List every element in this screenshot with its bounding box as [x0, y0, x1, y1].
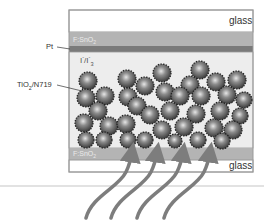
bottom-glass-label: glass [229, 161, 252, 171]
cell-schematic [0, 0, 264, 220]
dssc-diagram: glass F:SnO2 Pt I-/I-3 TiO2/N719 F:SnO2 … [0, 0, 264, 220]
top-glass-layer [69, 10, 253, 32]
tio2-label: TiO2/N719 [17, 81, 52, 89]
pt-layer [69, 46, 253, 52]
bottom-fto-layer [69, 148, 253, 160]
electrolyte-label: I-/I-3 [80, 57, 94, 65]
top-fto-label: F:SnO2 [73, 36, 96, 43]
top-glass-label: glass [229, 16, 252, 26]
pt-label: Pt [46, 43, 53, 51]
top-fto-layer [69, 32, 253, 46]
pt-leader-line [57, 47, 70, 49]
bottom-fto-label: F:SnO2 [73, 150, 96, 157]
bottom-glass-layer [69, 160, 253, 172]
